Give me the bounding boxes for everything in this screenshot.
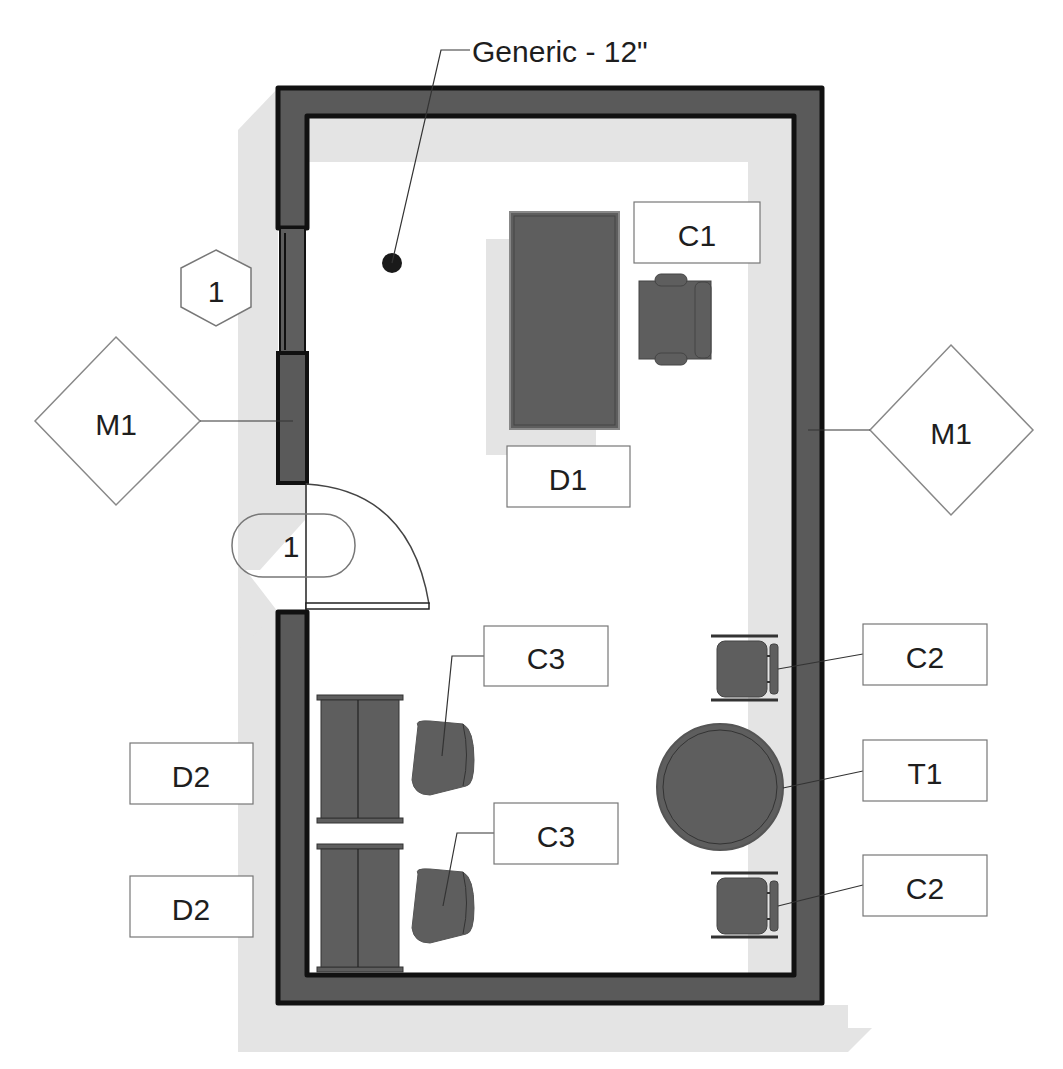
top-interior-shadow [307, 117, 797, 162]
tag-text: C2 [906, 641, 944, 674]
armchair-c1[interactable] [639, 274, 711, 365]
tag-text: C2 [906, 872, 944, 905]
door-swing-arc [306, 484, 429, 604]
tag-text: T1 [907, 757, 942, 790]
desk-icon [510, 212, 619, 429]
material-tag-right[interactable]: M1 [808, 345, 1033, 515]
door-tag-text: 1 [283, 530, 300, 563]
floor-plan: Generic - 12" 1 1 M1 M1 D1 C1 [0, 0, 1063, 1069]
window-tag-text: 1 [208, 275, 225, 308]
door-leaf [306, 603, 429, 609]
cabinet-d2-bottom[interactable] [317, 844, 403, 972]
left-wall-shadow-lower [238, 612, 278, 1052]
lounge-chair-c3-top[interactable] [412, 721, 474, 795]
left-wall-segment [278, 353, 307, 483]
tag-d1[interactable]: D1 [507, 446, 630, 507]
cabinet-icon [321, 849, 399, 967]
chair-icon [717, 878, 767, 934]
door[interactable] [306, 483, 429, 610]
tag-d2-top[interactable]: D2 [130, 743, 253, 804]
window-frame [280, 228, 305, 353]
tag-text: C3 [537, 820, 575, 853]
tag-text: C1 [678, 219, 716, 252]
wall-type-text: Generic - 12" [472, 35, 648, 68]
round-table-icon [657, 724, 783, 850]
desk-d1[interactable] [510, 212, 619, 429]
cabinet-d2-top[interactable] [317, 695, 403, 823]
tag-text: C3 [527, 642, 565, 675]
tag-text: D2 [172, 893, 210, 926]
tag-text: D1 [549, 463, 587, 496]
cabinet-icon [321, 700, 399, 818]
tag-d2-bottom[interactable]: D2 [130, 876, 253, 937]
chair-icon [717, 641, 767, 697]
round-table-t1[interactable] [657, 724, 783, 850]
material-tag-text: M1 [930, 417, 972, 450]
material-tag-text: M1 [95, 408, 137, 441]
tag-c1[interactable]: C1 [634, 202, 760, 263]
tag-text: D2 [172, 760, 210, 793]
